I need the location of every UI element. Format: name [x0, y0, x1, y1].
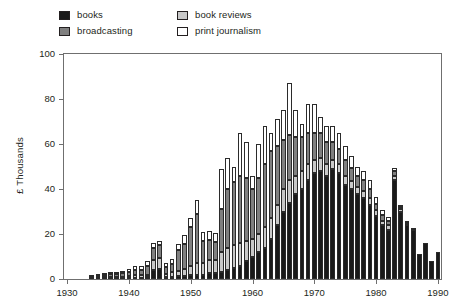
bar-segment-print-journalism — [281, 110, 286, 139]
bar-segment-book-reviews — [225, 248, 230, 271]
bar-segment-broadcasting — [102, 275, 107, 277]
bar-segment-broadcasting — [219, 209, 224, 252]
bar-segment-print-journalism — [318, 117, 323, 133]
bar-segment-book-reviews — [398, 209, 403, 211]
bar-segment-broadcasting — [281, 140, 286, 190]
bar-1966 — [287, 83, 292, 279]
bar-segment-broadcasting — [256, 178, 261, 234]
bar-segment-broadcasting — [182, 244, 187, 269]
bar-segment-print-journalism — [195, 200, 200, 214]
bar-1963 — [269, 133, 274, 279]
bar-segment-print-journalism — [343, 146, 348, 160]
bar-segment-print-journalism — [170, 259, 175, 265]
y-tick-label-100: 100 — [39, 49, 55, 59]
bar-segment-broadcasting — [139, 270, 144, 276]
bar-segment-books — [436, 252, 441, 279]
y-tick-label-0: 0 — [50, 274, 55, 284]
bar-segment-broadcasting — [330, 142, 335, 160]
bar-segment-broadcasting — [238, 176, 243, 244]
bar-segment-print-journalism — [120, 271, 125, 273]
bar-1962 — [263, 126, 268, 279]
bar-segment-book-reviews — [293, 176, 298, 194]
bar-segment-books — [300, 189, 305, 279]
bar-1980 — [374, 197, 379, 279]
bar-segment-books — [176, 276, 181, 279]
bar-segment-broadcasting — [232, 182, 237, 245]
bar-1958 — [238, 133, 243, 279]
bar-segment-book-reviews — [392, 176, 397, 180]
bar-1955 — [219, 169, 224, 279]
x-tick-1930 — [67, 279, 68, 284]
bar-segment-print-journalism — [164, 263, 169, 267]
x-tick-label-1950: 1950 — [180, 288, 201, 298]
bar-segment-print-journalism — [355, 167, 360, 176]
bar-segment-book-reviews — [330, 160, 335, 169]
bar-segment-print-journalism — [89, 275, 94, 277]
bar-segment-books — [244, 261, 249, 279]
bar-segment-books — [386, 230, 391, 280]
bar-segment-broadcasting — [318, 133, 323, 158]
bar-segment-print-journalism — [405, 221, 410, 223]
y-tick-label-20: 20 — [44, 229, 55, 239]
bar-segment-print-journalism — [269, 133, 274, 151]
x-tick-1940 — [129, 279, 130, 284]
bar-segment-book-reviews — [343, 176, 348, 185]
bar-segment-broadcasting — [269, 151, 274, 219]
bar-segment-broadcasting — [368, 189, 373, 198]
bar-1937 — [108, 272, 113, 279]
bar-1983 — [392, 168, 397, 279]
bar-1969 — [306, 104, 311, 280]
bar-segment-book-reviews — [182, 269, 187, 276]
bar-segment-print-journalism — [300, 124, 305, 138]
bar-1976 — [349, 156, 354, 279]
broadcasting-swatch — [59, 27, 70, 36]
bar-segment-books — [318, 171, 323, 279]
bar-1972 — [324, 126, 329, 279]
legend-label-broadcasting: broadcasting — [77, 26, 133, 36]
bar-segment-books — [275, 225, 280, 279]
bar-segment-broadcasting — [337, 149, 342, 165]
bar-segment-book-reviews — [324, 164, 329, 175]
bar-1965 — [281, 110, 286, 279]
bar-segment-broadcasting — [207, 240, 212, 260]
bar-segment-book-reviews — [164, 274, 169, 277]
x-tick-label-1970: 1970 — [304, 288, 325, 298]
bar-segment-print-journalism — [188, 218, 193, 227]
bar-segment-books — [398, 212, 403, 280]
bar-segment-broadcasting — [114, 274, 119, 277]
bar-segment-print-journalism — [398, 205, 403, 207]
x-tick-label-1990: 1990 — [427, 288, 448, 298]
bar-segment-print-journalism — [392, 168, 397, 171]
bar-segment-broadcasting — [287, 135, 292, 180]
bar-segment-broadcasting — [263, 164, 268, 227]
bar-1942 — [139, 266, 144, 279]
bar-segment-book-reviews — [386, 225, 391, 229]
bar-segment-print-journalism — [238, 133, 243, 176]
bar-1974 — [337, 133, 342, 279]
bar-segment-books — [349, 189, 354, 279]
y-tick-40 — [59, 189, 64, 190]
bar-1988 — [423, 243, 428, 279]
bar-segment-books — [330, 169, 335, 279]
bar-segment-broadcasting — [244, 178, 249, 241]
bar-segment-print-journalism — [102, 273, 107, 275]
stacked-bar-chart-figure: books broadcasting book reviews print jo… — [0, 0, 456, 307]
bar-segment-book-reviews — [195, 263, 200, 274]
x-tick-label-1980: 1980 — [366, 288, 387, 298]
bar-segment-book-reviews — [361, 191, 366, 198]
x-tick-label-1930: 1930 — [57, 288, 78, 298]
y-tick-20 — [59, 234, 64, 235]
bar-segment-broadcasting — [188, 227, 193, 265]
bar-segment-broadcasting — [151, 248, 156, 260]
bar-segment-book-reviews — [201, 263, 206, 274]
bar-segment-print-journalism — [374, 197, 379, 204]
bar-segment-print-journalism — [244, 142, 249, 178]
bar-segment-print-journalism — [232, 167, 237, 183]
bar-segment-book-reviews — [411, 228, 416, 230]
bar-segment-book-reviews — [318, 158, 323, 172]
bar-segment-print-journalism — [133, 266, 138, 269]
bar-1986 — [411, 228, 416, 279]
y-tick-100 — [59, 54, 64, 55]
bar-segment-books — [374, 216, 379, 279]
bar-segment-broadcasting — [213, 242, 218, 260]
